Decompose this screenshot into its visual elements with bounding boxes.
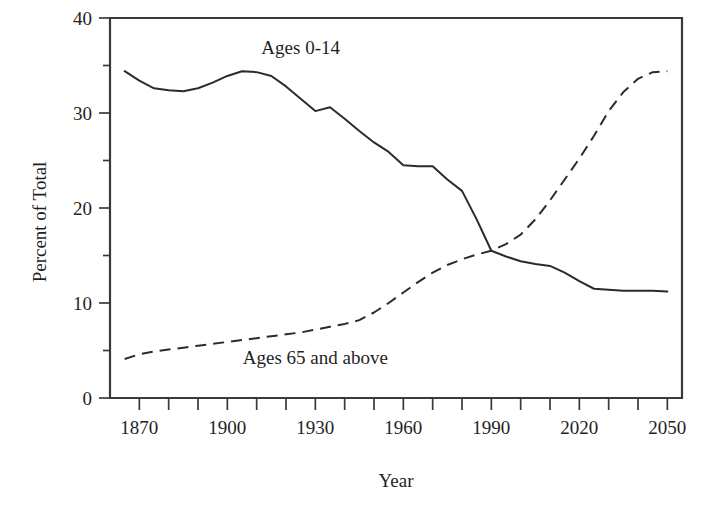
y-tick-label-0: 0 [83, 388, 93, 409]
x-tick-label-1960: 1960 [384, 417, 422, 438]
y-tick-label-10: 10 [73, 293, 92, 314]
x-tick-label-1900: 1900 [208, 417, 246, 438]
y-axis-ticks [99, 18, 110, 398]
x-tick-label-2020: 2020 [560, 417, 598, 438]
y-tick-label-20: 20 [73, 198, 92, 219]
data-series-group [125, 71, 668, 359]
x-axis-title: Year [378, 470, 414, 491]
y-axis-title: Percent of Total [29, 162, 50, 283]
series-annotation-ages-65-and-above: Ages 65 and above [243, 347, 388, 368]
series-annotations: Ages 0-14Ages 65 and above [243, 37, 388, 368]
plot-frame-box [110, 18, 682, 398]
line-chart: 010203040 1870190019301960199020202050 A… [0, 0, 723, 511]
y-axis-tick-labels: 010203040 [73, 8, 92, 409]
x-axis-ticks [139, 398, 667, 410]
series-line-ages-0-14 [125, 71, 668, 291]
plot-frame [110, 18, 682, 398]
x-tick-label-1870: 1870 [120, 417, 158, 438]
series-line-ages-65-and-above [125, 71, 668, 359]
x-tick-label-2050: 2050 [648, 417, 686, 438]
series-annotation-ages-0-14: Ages 0-14 [261, 37, 340, 58]
y-tick-label-40: 40 [73, 8, 92, 29]
x-tick-label-1930: 1930 [296, 417, 334, 438]
y-tick-label-30: 30 [73, 103, 92, 124]
figure-container: 010203040 1870190019301960199020202050 A… [0, 0, 723, 511]
x-tick-label-1990: 1990 [472, 417, 510, 438]
x-axis-tick-labels: 1870190019301960199020202050 [120, 417, 686, 438]
